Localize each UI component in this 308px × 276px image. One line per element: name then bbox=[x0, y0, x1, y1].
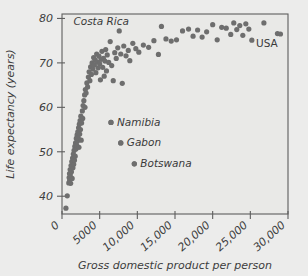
y-axis-title: Life expectancy (years) bbox=[4, 49, 17, 178]
data-point bbox=[123, 53, 128, 58]
scatter-chart: 40506070800500010,00015,00020,00025,0003… bbox=[0, 0, 308, 276]
data-point bbox=[151, 38, 156, 43]
data-point bbox=[63, 206, 68, 211]
data-point bbox=[109, 63, 114, 68]
data-point bbox=[78, 127, 83, 132]
data-point bbox=[228, 32, 233, 37]
x-axis-title: Gross domestic product per person bbox=[78, 259, 272, 272]
data-point bbox=[237, 23, 242, 28]
data-point bbox=[190, 34, 195, 39]
data-point bbox=[81, 98, 86, 103]
data-point bbox=[126, 48, 131, 53]
data-point bbox=[73, 154, 78, 159]
annotation-label: Namibia bbox=[117, 116, 160, 128]
data-point bbox=[127, 58, 132, 63]
y-axis-tick-label: 50 bbox=[39, 146, 53, 159]
data-point bbox=[93, 70, 98, 75]
data-point bbox=[79, 120, 84, 125]
data-point bbox=[200, 35, 205, 40]
data-point bbox=[146, 45, 151, 50]
data-point bbox=[240, 33, 245, 38]
plot-frame bbox=[62, 14, 288, 214]
annotation-marker bbox=[118, 140, 123, 145]
data-point bbox=[68, 181, 73, 186]
x-axis-tick-label: 20,000 bbox=[175, 219, 212, 254]
y-axis-tick-label: 80 bbox=[39, 12, 53, 25]
data-point bbox=[130, 41, 135, 46]
data-point bbox=[219, 25, 224, 30]
annotation-label: Gabon bbox=[127, 136, 161, 148]
data-point bbox=[186, 27, 191, 32]
x-axis-tick-label: 30,000 bbox=[251, 219, 288, 254]
x-axis-tick-label: 10,000 bbox=[100, 219, 137, 254]
data-point bbox=[261, 20, 266, 25]
data-point bbox=[141, 43, 146, 48]
data-point bbox=[163, 36, 168, 41]
data-point bbox=[121, 43, 126, 48]
y-axis-tick-label: 40 bbox=[39, 190, 53, 203]
data-point bbox=[100, 65, 105, 70]
data-point bbox=[105, 52, 110, 57]
data-point bbox=[82, 105, 87, 110]
data-point bbox=[117, 28, 122, 33]
data-point bbox=[114, 56, 119, 61]
x-axis-tick-label: 5000 bbox=[70, 219, 100, 247]
data-point bbox=[79, 138, 84, 143]
data-point bbox=[180, 28, 185, 33]
annotation-marker bbox=[108, 120, 113, 125]
data-point bbox=[169, 39, 174, 44]
annotation-label: Costa Rica bbox=[73, 15, 129, 27]
data-point bbox=[87, 78, 92, 83]
data-point bbox=[77, 131, 82, 136]
data-point bbox=[195, 27, 200, 32]
data-point bbox=[224, 26, 229, 31]
data-point bbox=[136, 50, 141, 55]
x-axis-tick-label: 0 bbox=[48, 219, 62, 233]
data-point bbox=[84, 91, 89, 96]
data-point bbox=[70, 176, 75, 181]
data-point bbox=[102, 74, 107, 79]
data-point bbox=[249, 38, 254, 43]
data-point bbox=[85, 84, 90, 89]
data-point bbox=[118, 51, 123, 56]
data-point bbox=[210, 22, 215, 27]
y-axis-tick-label: 60 bbox=[39, 101, 53, 114]
y-axis-tick-label: 70 bbox=[39, 57, 53, 70]
data-point bbox=[120, 81, 125, 86]
data-point bbox=[80, 116, 85, 121]
data-point bbox=[103, 47, 108, 52]
data-point bbox=[115, 45, 120, 50]
data-point bbox=[111, 78, 116, 83]
data-point bbox=[76, 145, 81, 150]
data-point bbox=[156, 52, 161, 57]
x-axis-tick-label: 15,000 bbox=[138, 219, 175, 254]
data-point bbox=[278, 31, 283, 36]
data-point bbox=[231, 20, 236, 25]
data-point bbox=[89, 72, 94, 77]
data-point bbox=[104, 68, 109, 73]
data-point bbox=[112, 50, 117, 55]
data-point bbox=[243, 21, 248, 26]
data-point bbox=[174, 37, 179, 42]
data-point bbox=[65, 193, 70, 198]
annotation-label: USA bbox=[256, 37, 279, 49]
data-point bbox=[215, 37, 220, 42]
chart-canvas: 40506070800500010,00015,00020,00025,0003… bbox=[0, 0, 308, 276]
data-point bbox=[98, 77, 103, 82]
x-axis-tick-label: 25,000 bbox=[213, 219, 250, 254]
annotation-label: Botswana bbox=[140, 157, 191, 169]
data-point bbox=[246, 27, 251, 32]
data-point bbox=[204, 29, 209, 34]
data-point bbox=[108, 39, 113, 44]
annotation-marker bbox=[132, 161, 137, 166]
data-point bbox=[159, 24, 164, 29]
